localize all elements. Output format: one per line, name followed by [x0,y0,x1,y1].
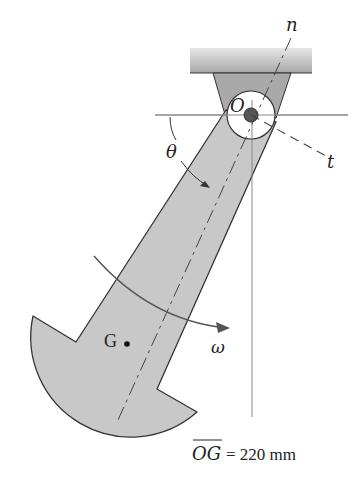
pendulum-diagram: n O t θ G ω OG = 220 mm [0,0,360,477]
label-O: O [230,95,245,116]
label-omega: ω [211,337,225,357]
ceiling-support [190,48,312,73]
center-of-mass-dot [124,341,130,347]
normal-axis-line [118,38,291,420]
theta-arc [170,117,176,140]
label-n: n [286,14,298,35]
dimension-value: = 220 mm [226,445,296,464]
omega-arrowhead [216,322,230,333]
label-G: G [104,331,117,351]
label-theta: θ [166,141,177,162]
pendulum-body [31,110,276,437]
dimension-segment: OG [192,443,221,464]
label-t: t [327,151,335,172]
